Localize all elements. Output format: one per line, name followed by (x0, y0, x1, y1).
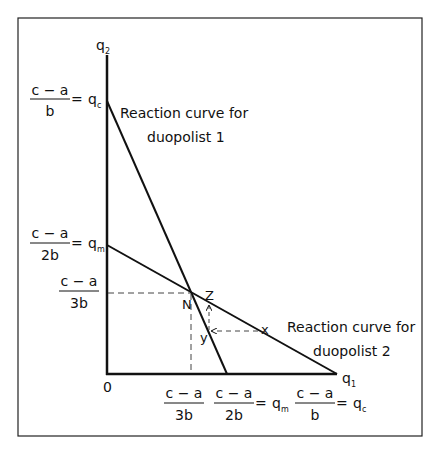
svg-text:=: = (255, 395, 267, 411)
svg-text:3b: 3b (70, 295, 88, 311)
svg-text:b: b (311, 407, 320, 423)
y-axis-label: q 2 (96, 37, 110, 56)
svg-text:c − a: c − a (32, 82, 69, 98)
cournot-diagram: q 2 q 1 0 Reaction curve for duopolist 1… (0, 0, 437, 454)
svg-text:m: m (281, 405, 289, 414)
svg-text:q: q (353, 395, 362, 411)
y-tick-third: c − a 3b (59, 273, 99, 311)
svg-text:q: q (88, 91, 97, 107)
point-x-label: x (261, 322, 269, 337)
svg-text:2b: 2b (41, 247, 59, 263)
svg-text:c: c (362, 405, 366, 414)
svg-text:c − a: c − a (216, 385, 253, 401)
svg-text:=: = (336, 395, 348, 411)
x-tick-qm: c − a 2b = q m (214, 385, 289, 423)
x-axis-label: q 1 (342, 370, 356, 389)
origin-label: 0 (103, 379, 112, 395)
point-y-label: y (200, 330, 208, 345)
svg-text:Reaction curve for: Reaction curve for (120, 105, 248, 121)
svg-text:q: q (272, 395, 281, 411)
y-tick-qc: c − a b = q c (30, 82, 101, 119)
x-tick-third: c − a 3b (164, 385, 204, 423)
x-tick-qc: c − a b = q c (295, 385, 366, 423)
point-z-label: Z (205, 288, 214, 303)
svg-text:=: = (71, 235, 83, 251)
svg-text:c − a: c − a (61, 273, 98, 289)
svg-text:q: q (88, 235, 97, 251)
svg-text:q: q (96, 37, 105, 53)
svg-text:c: c (97, 101, 101, 110)
curve-1-label: Reaction curve for duopolist 1 (120, 105, 248, 145)
svg-text:2b: 2b (225, 407, 243, 423)
svg-text:1: 1 (351, 380, 356, 389)
svg-text:c − a: c − a (297, 385, 334, 401)
svg-text:2: 2 (105, 47, 110, 56)
svg-text:b: b (46, 103, 55, 119)
svg-text:duopolist 2: duopolist 2 (313, 343, 391, 359)
reaction-curve-2 (107, 245, 337, 374)
svg-text:duopolist 1: duopolist 1 (147, 129, 225, 145)
curve-2-label: Reaction curve for duopolist 2 (287, 319, 415, 359)
y-tick-qm: c − a 2b = q m (30, 225, 105, 263)
svg-text:c − a: c − a (32, 225, 69, 241)
svg-text:Reaction curve for: Reaction curve for (287, 319, 415, 335)
point-n-label: N (182, 297, 192, 312)
svg-text:q: q (342, 370, 351, 386)
svg-text:c − a: c − a (166, 385, 203, 401)
svg-text:3b: 3b (175, 407, 193, 423)
svg-text:m: m (97, 245, 105, 254)
svg-text:=: = (71, 91, 83, 107)
